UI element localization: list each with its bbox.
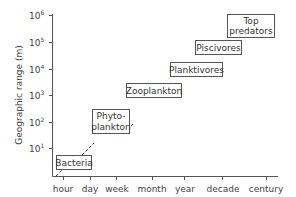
y-axis-title: Geographic range (m)	[14, 45, 24, 145]
box-zooplankton: Zooplankton	[126, 84, 183, 98]
x-tick-century: century	[249, 184, 284, 194]
range-lifespan-diagram: 106 105 104 103 102 101 Geographic range…	[0, 0, 296, 197]
svg-text:Planktivores: Planktivores	[169, 65, 224, 75]
y-tick-1e6: 106	[29, 9, 44, 21]
x-tick-labels: hour day week month year decade century	[53, 184, 284, 194]
box-planktivores: Planktivores	[169, 63, 224, 77]
y-tick-labels: 106 105 104 103 102 101	[29, 9, 44, 154]
y-tick-1e4: 104	[29, 63, 44, 75]
x-tick-day: day	[82, 184, 99, 194]
svg-text:Zooplankton: Zooplankton	[126, 86, 183, 96]
svg-text:plankton: plankton	[91, 122, 130, 132]
x-tick-year: year	[175, 184, 195, 194]
y-tick-1e2: 102	[29, 116, 44, 128]
y-tick-1e1: 101	[29, 142, 44, 154]
svg-text:Bacteria: Bacteria	[55, 158, 92, 168]
y-ticks	[49, 16, 53, 149]
svg-text:Phyto-: Phyto-	[97, 111, 126, 121]
x-ticks	[64, 177, 267, 181]
box-phytoplankton: Phyto- plankton	[91, 110, 130, 134]
svg-text:Top: Top	[242, 16, 258, 26]
svg-text:Piscivores: Piscivores	[196, 43, 241, 53]
y-tick-1e3: 103	[29, 89, 44, 101]
x-tick-decade: decade	[207, 184, 240, 194]
y-tick-1e5: 105	[29, 36, 44, 48]
box-bacteria: Bacteria	[55, 156, 92, 170]
box-top-predators: Top predators	[228, 15, 275, 38]
x-tick-week: week	[105, 184, 129, 194]
x-tick-hour: hour	[53, 184, 74, 194]
box-piscivores: Piscivores	[196, 41, 242, 55]
x-tick-month: month	[137, 184, 166, 194]
svg-text:predators: predators	[229, 26, 273, 36]
